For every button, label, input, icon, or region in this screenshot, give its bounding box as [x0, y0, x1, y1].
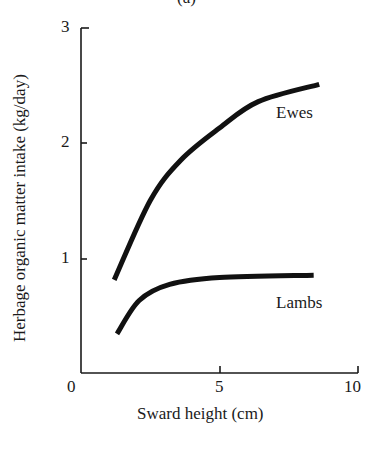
- chart-plot-area: [0, 0, 374, 451]
- x-axis-label: Sward height (cm): [137, 404, 264, 424]
- x-tick-label-10: 10: [344, 377, 361, 397]
- x-tick-label-5: 5: [215, 377, 224, 397]
- y-tick-label-1: 1: [61, 248, 70, 268]
- y-tick-label-2: 2: [61, 132, 70, 152]
- lambs-label: Lambs: [276, 293, 322, 313]
- ewes-label: Ewes: [276, 103, 313, 123]
- y-tick-label-3: 3: [61, 17, 70, 37]
- y-axis-label: Herbage organic matter intake (kg/day): [10, 82, 30, 342]
- x-tick-label-0: 0: [67, 377, 76, 397]
